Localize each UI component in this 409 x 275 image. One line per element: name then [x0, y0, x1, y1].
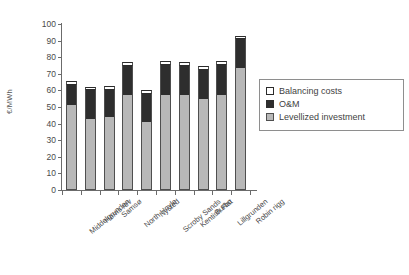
bar-segment[interactable] — [66, 105, 77, 190]
y-axis-tick-label: 50 — [26, 103, 56, 111]
y-axis-tick-label: 20 — [26, 153, 56, 161]
x-axis-tick-mark — [137, 191, 138, 195]
bar-column[interactable] — [66, 24, 77, 190]
bar-column[interactable] — [85, 24, 96, 190]
y-axis-tick-label: 30 — [26, 136, 56, 144]
bar-segment[interactable] — [160, 61, 171, 64]
x-axis-line — [61, 190, 257, 191]
bar-segment[interactable] — [235, 39, 246, 68]
x-axis-tick-mark — [62, 191, 63, 195]
y-axis-tick-label: 80 — [26, 53, 56, 61]
bar-segment[interactable] — [122, 62, 133, 65]
bar-segment[interactable] — [66, 85, 77, 106]
bar-segment[interactable] — [235, 36, 246, 38]
bar-segment[interactable] — [122, 95, 133, 190]
legend-item-balancing-costs[interactable]: Balancing costs — [266, 86, 398, 96]
x-axis-category-label: Burbo — [213, 197, 234, 217]
x-axis-category-label: Middelgrunden — [88, 197, 132, 236]
legend-label: Balancing costs — [279, 86, 342, 96]
x-axis-tick-mark — [194, 191, 195, 195]
y-axis-tick-label: 0 — [26, 186, 56, 194]
bar-segment[interactable] — [104, 117, 115, 190]
y-axis-title: €/MWh — [5, 80, 14, 124]
legend: Balancing costs O&M Levellized investmen… — [259, 79, 404, 131]
legend-label: O&M — [279, 99, 300, 109]
bar-segment[interactable] — [179, 62, 190, 65]
bar-segment[interactable] — [216, 95, 227, 190]
x-axis-tick-mark — [100, 191, 101, 195]
bar-segment[interactable] — [122, 66, 133, 95]
x-axis-tick-mark — [81, 191, 82, 195]
bar-segment[interactable] — [141, 94, 152, 122]
bar-segment[interactable] — [85, 90, 96, 118]
plot-area — [62, 24, 250, 190]
x-axis-category-label: Scroby Sands — [181, 197, 223, 234]
x-axis-category-label: Kentish Flat — [198, 197, 234, 229]
black-square-icon — [266, 100, 274, 108]
bar-column[interactable] — [216, 24, 227, 190]
bar-column[interactable] — [160, 24, 171, 190]
y-axis-tick-label: 90 — [26, 37, 56, 45]
chart-figure: €/MWh 1009080706050403020100 Middelgrund… — [0, 0, 409, 275]
x-axis-tick-mark — [231, 191, 232, 195]
x-axis-tick-mark — [212, 191, 213, 195]
x-axis-category-label: Nysted — [157, 197, 181, 219]
bar-segment[interactable] — [141, 90, 152, 93]
bar-segment[interactable] — [179, 95, 190, 190]
bar-segment[interactable] — [198, 66, 209, 69]
bar-column[interactable] — [235, 24, 246, 190]
gray-square-icon — [266, 113, 274, 121]
bar-segment[interactable] — [216, 61, 227, 64]
bar-segment[interactable] — [198, 99, 209, 190]
y-axis-tick-label: 40 — [26, 120, 56, 128]
x-axis-tick-mark — [118, 191, 119, 195]
legend-item-om[interactable]: O&M — [266, 99, 398, 109]
x-axis-category-label: North Hoyle — [142, 197, 178, 229]
x-axis-tick-mark — [156, 191, 157, 195]
x-axis-tick-mark — [175, 191, 176, 195]
bar-segment[interactable] — [85, 119, 96, 190]
bar-column[interactable] — [104, 24, 115, 190]
x-axis-category-label: Horns rev — [103, 197, 134, 225]
bar-segment[interactable] — [104, 90, 115, 117]
bar-segment[interactable] — [179, 66, 190, 95]
white-square-icon — [266, 87, 274, 95]
bar-segment[interactable] — [216, 65, 227, 95]
y-axis-tick-label: 10 — [26, 169, 56, 177]
bar-segment[interactable] — [66, 81, 77, 84]
bar-segment[interactable] — [235, 68, 246, 190]
bar-segment[interactable] — [160, 65, 171, 95]
bar-column[interactable] — [122, 24, 133, 190]
bar-segment[interactable] — [160, 95, 171, 190]
bar-column[interactable] — [179, 24, 190, 190]
legend-label: Levellized investment — [279, 112, 365, 122]
y-axis-tick-label: 100 — [26, 20, 56, 28]
legend-item-levellized-investment[interactable]: Levellized investment — [266, 112, 398, 122]
y-axis-tick-label: 60 — [26, 86, 56, 94]
x-axis-category-label: Lillgrunden — [235, 197, 269, 227]
bar-segment[interactable] — [141, 122, 152, 190]
x-axis-category-label: Robin rigg — [254, 197, 286, 226]
y-axis-tick-label: 70 — [26, 70, 56, 78]
bar-column[interactable] — [141, 24, 152, 190]
x-axis-tick-mark — [250, 191, 251, 195]
bar-segment[interactable] — [104, 86, 115, 90]
bar-column[interactable] — [198, 24, 209, 190]
bar-segment[interactable] — [85, 87, 96, 90]
x-axis-category-label: Samsø — [120, 197, 144, 219]
bar-segment[interactable] — [198, 70, 209, 99]
